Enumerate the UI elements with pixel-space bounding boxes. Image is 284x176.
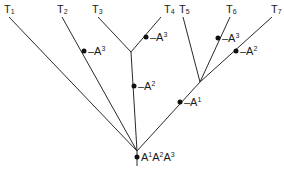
marker-label: –A2 [138,80,155,92]
root-marker: A1A2A3 [135,151,175,163]
taxon-labels: T1T2T3T4T5T6T7 [4,3,282,15]
phylogenetic-tree-diagram: T1T2T3T4T5T6T7 –A3–A3–A2–A3–A2–A1 A1A2A3 [0,0,284,176]
marker-dot [144,35,149,40]
marker-dot [216,36,221,41]
marker-t2: –A3 [82,45,106,57]
marker-dot [234,49,239,54]
marker-dot [82,49,87,54]
marker-t7: –A2 [234,45,258,57]
taxon-label-t4: T4 [164,3,175,15]
edge-n34 [131,52,137,151]
marker-label: –A1 [184,96,201,108]
taxon-label-t1: T1 [4,3,15,15]
marker-n34: –A2 [132,80,156,92]
taxon-label-t2: T2 [57,3,68,15]
root-dot [135,155,140,160]
marker-label: –A3 [88,45,105,57]
taxon-label-t6: T6 [226,3,237,15]
edge-t5 [183,17,200,82]
taxon-label-t7: T7 [271,3,282,15]
edge-t6 [200,17,230,82]
taxon-label-t3: T3 [92,3,103,15]
marker-dot [132,84,137,89]
marker-dot [178,100,183,105]
marker-label: –A2 [240,45,257,57]
taxon-label-t5: T5 [179,3,190,15]
marker-label: –A3 [150,31,167,43]
marker-n567: –A1 [178,96,202,108]
root-label: A1A2A3 [141,151,175,163]
marker-t6: –A3 [216,32,240,44]
character-markers: –A3–A3–A2–A3–A2–A1 [82,31,258,108]
marker-label: –A3 [222,32,239,44]
edge-n567 [137,82,200,151]
